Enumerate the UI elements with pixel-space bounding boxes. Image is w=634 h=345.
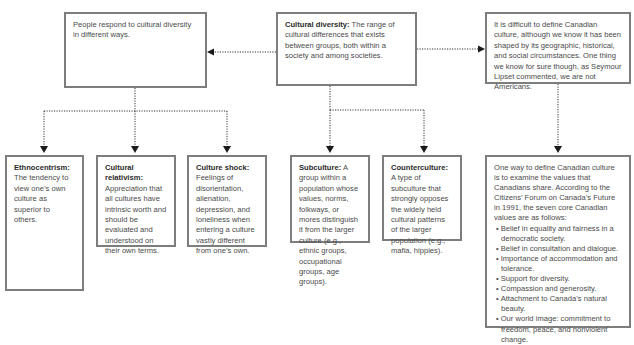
counterculture-term: Counterculture: <box>391 163 448 172</box>
cultural-relativism-term: Cultural relativism: <box>105 163 143 182</box>
cultural-relativism-definition: Appreciation that all cultures have intr… <box>105 184 166 255</box>
cultural-diversity-box: Cultural diversity: The range of cultura… <box>276 12 417 86</box>
canadian-values-box: One way to define Canadian culture is to… <box>485 155 631 328</box>
canadian-value-item: Compassion and generosity. <box>494 284 622 294</box>
culture-shock-definition: Feelings of disorientation, alienation, … <box>196 173 255 255</box>
ethnocentrism-definition: The tendency to view one’s own culture a… <box>14 173 68 224</box>
cultural-diversity-term: Cultural diversity: <box>285 20 350 29</box>
ethnocentrism-box: Ethnocentrism: The tendency to view one’… <box>5 155 84 291</box>
canadian-value-item: Our world image: commitment to freedom, … <box>494 314 622 344</box>
canadian-values-intro: One way to define Canadian culture is to… <box>494 163 622 224</box>
canadian-culture-box: It is difficult to define Canadian cultu… <box>485 12 631 84</box>
canadian-value-item: Belief in consultation and dialogue. <box>494 244 622 254</box>
canadian-culture-text: It is difficult to define Canadian cultu… <box>494 20 621 91</box>
ethnocentrism-term: Ethnocentrism: <box>14 163 70 172</box>
arrow-left-icon <box>207 49 214 56</box>
counterculture-definition: A type of subculture that strongly oppos… <box>391 173 448 255</box>
subculture-box: Subculture: A group within a population … <box>290 155 370 243</box>
arrow-right-icon <box>478 46 485 53</box>
canadian-value-item: Support for diversity. <box>494 274 622 284</box>
canadian-value-item: Belief in equality and fairness in a dem… <box>494 224 622 244</box>
response-intro-text: People respond to cultural diversity in … <box>73 20 191 39</box>
culture-shock-term: Culture shock: <box>196 163 249 172</box>
counterculture-box: Counterculture: A type of subculture tha… <box>382 155 462 241</box>
response-intro-box: People respond to cultural diversity in … <box>64 12 207 88</box>
canadian-value-item: Attachment to Canada’s natural beauty. <box>494 294 622 314</box>
canadian-values-list: Belief in equality and fairness in a dem… <box>494 224 622 345</box>
cultural-relativism-box: Cultural relativism: Appreciation that a… <box>96 155 176 247</box>
subculture-term: Subculture: <box>299 163 341 172</box>
canadian-value-item: Importance of accommodation and toleranc… <box>494 254 622 274</box>
culture-shock-box: Culture shock: Feelings of disorientatio… <box>187 155 267 247</box>
